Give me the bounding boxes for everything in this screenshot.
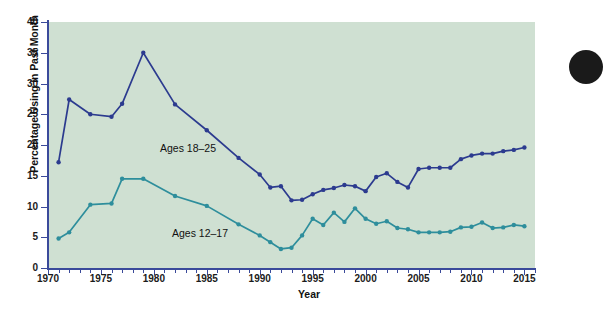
data-point: [353, 184, 357, 188]
data-point: [109, 201, 113, 205]
data-point: [173, 194, 177, 198]
data-point: [67, 97, 71, 101]
data-point: [522, 145, 526, 149]
data-point: [258, 233, 262, 237]
data-point: [205, 204, 209, 208]
data-point: [490, 151, 494, 155]
data-point: [173, 102, 177, 106]
data-point: [512, 223, 516, 227]
data-point: [88, 112, 92, 116]
data-point: [353, 206, 357, 210]
data-point: [332, 210, 336, 214]
data-point: [321, 188, 325, 192]
series-label-ages-12-17: Ages 12–17: [172, 227, 228, 239]
series-line: [59, 179, 525, 249]
data-point: [363, 217, 367, 221]
data-point: [120, 102, 124, 106]
data-point: [321, 223, 325, 227]
data-point: [141, 177, 145, 181]
data-point: [438, 230, 442, 234]
data-point: [268, 240, 272, 244]
series-label-ages-18-25: Ages 18–25: [160, 142, 216, 154]
data-point: [236, 222, 240, 226]
data-point: [332, 186, 336, 190]
data-point: [385, 171, 389, 175]
data-point: [406, 227, 410, 231]
data-point: [469, 225, 473, 229]
page-edge-artifact-circle: [569, 50, 603, 84]
data-point: [385, 219, 389, 223]
data-point: [310, 192, 314, 196]
data-point: [289, 198, 293, 202]
data-point: [395, 226, 399, 230]
data-point: [236, 156, 240, 160]
data-point: [427, 166, 431, 170]
data-point: [300, 198, 304, 202]
data-point: [279, 184, 283, 188]
data-point: [427, 230, 431, 234]
data-point: [88, 202, 92, 206]
data-point: [56, 236, 60, 240]
data-point: [141, 51, 145, 55]
data-point: [279, 247, 283, 251]
data-point: [416, 167, 420, 171]
data-point: [522, 224, 526, 228]
data-point: [469, 153, 473, 157]
data-point: [268, 185, 272, 189]
data-point: [438, 166, 442, 170]
data-point: [363, 189, 367, 193]
series-ages-18-25: [56, 51, 526, 203]
data-point: [459, 225, 463, 229]
data-point: [67, 230, 71, 234]
data-point: [120, 177, 124, 181]
data-point: [289, 246, 293, 250]
data-point: [310, 217, 314, 221]
data-point: [395, 180, 399, 184]
data-point: [300, 233, 304, 237]
data-point: [374, 222, 378, 226]
data-point: [342, 183, 346, 187]
data-point: [406, 185, 410, 189]
data-point: [448, 230, 452, 234]
data-point: [56, 160, 60, 164]
data-point: [501, 149, 505, 153]
data-point: [109, 115, 113, 119]
data-point: [480, 220, 484, 224]
data-point: [258, 172, 262, 176]
data-point: [374, 175, 378, 179]
data-point: [448, 166, 452, 170]
data-point: [480, 151, 484, 155]
data-point: [416, 230, 420, 234]
data-point: [342, 220, 346, 224]
data-point: [512, 148, 516, 152]
data-point: [205, 128, 209, 132]
series-ages-12-17: [56, 177, 526, 252]
data-point: [459, 157, 463, 161]
data-point: [501, 225, 505, 229]
data-point: [490, 226, 494, 230]
